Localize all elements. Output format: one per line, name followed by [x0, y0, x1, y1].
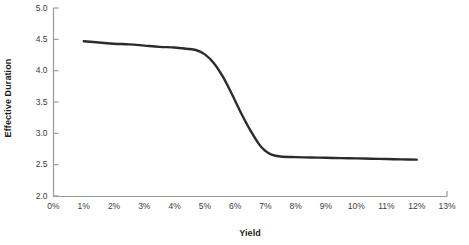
- series-line-1: [84, 41, 417, 159]
- data-series-layer: [84, 41, 417, 159]
- plot-area: [0, 0, 469, 245]
- chart-container: Effective Duration Yield 2.02.53.03.54.0…: [0, 0, 469, 245]
- axis-lines: [53, 8, 447, 197]
- y-axis-ticks: [54, 8, 59, 196]
